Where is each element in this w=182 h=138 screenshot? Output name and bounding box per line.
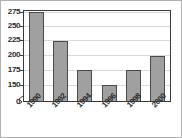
y-tick-label-225: 225 (8, 36, 20, 44)
y-tick-label-175: 175 (8, 66, 20, 74)
x-axis: 1990 1992 1994 1996 1998 2000 (23, 103, 171, 137)
y-tick-label-200: 200 (8, 51, 20, 59)
y-tick-label-275: 275 (8, 8, 20, 16)
bars-layer (24, 11, 170, 101)
plot-area (23, 10, 171, 102)
bar-chart-figure: 275 250 225 200 175 150 0 (0, 0, 182, 138)
y-tick-label-150: 150 (8, 81, 20, 89)
y-tick-label-250: 250 (8, 22, 20, 30)
bar-1990[interactable] (29, 12, 44, 101)
